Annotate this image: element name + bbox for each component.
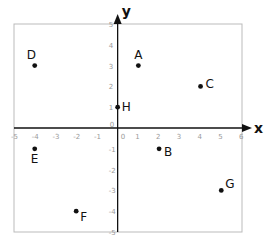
- y-tick-label: 2: [109, 83, 113, 91]
- x-tick-label: 1: [135, 133, 139, 141]
- y-tick-label: -2: [109, 167, 116, 175]
- origin-label-x: 0: [121, 133, 125, 141]
- point-label-f: F: [80, 210, 87, 224]
- y-axis-label: y: [122, 3, 131, 19]
- y-tick-label: 1: [109, 104, 113, 112]
- point-g: [219, 188, 224, 193]
- x-tick-label: -1: [94, 133, 101, 141]
- y-tick-label: -4: [109, 208, 117, 216]
- point-label-d: D: [27, 48, 36, 62]
- y-tick-label: -5: [109, 229, 116, 237]
- x-tick-label: -5: [11, 133, 18, 141]
- x-tick-label: -3: [52, 133, 59, 141]
- coordinate-plane: xy-5-4-3-2-1123456-5-4-3-2-11234500ABCDE…: [0, 0, 276, 246]
- point-e: [32, 146, 37, 151]
- y-tick-label: -3: [109, 187, 116, 195]
- point-h: [115, 105, 120, 110]
- point-label-c: C: [206, 77, 214, 91]
- point-a: [136, 63, 141, 68]
- x-tick-label: -4: [32, 133, 40, 141]
- point-f: [74, 209, 79, 214]
- origin-label-y: 0: [110, 121, 114, 129]
- x-tick-label: 5: [218, 133, 222, 141]
- point-label-b: B: [164, 145, 172, 159]
- x-tick-label: 4: [198, 133, 203, 141]
- x-tick-label: -2: [73, 133, 80, 141]
- y-tick-label: 3: [109, 63, 113, 71]
- point-label-e: E: [31, 152, 39, 166]
- point-c: [198, 84, 203, 89]
- x-tick-label: 2: [156, 133, 160, 141]
- point-b: [157, 146, 162, 151]
- point-d: [32, 63, 37, 68]
- x-axis-arrow-icon: [242, 124, 252, 132]
- y-axis-arrow-icon: [114, 14, 122, 24]
- x-axis-label: x: [254, 120, 263, 136]
- x-tick-label: 6: [239, 133, 244, 141]
- point-label-g: G: [225, 177, 234, 191]
- y-tick-label: 5: [109, 21, 113, 29]
- point-label-h: H: [122, 100, 131, 114]
- y-tick-label: -1: [109, 146, 116, 154]
- y-tick-label: 4: [109, 42, 114, 50]
- x-tick-label: 3: [177, 133, 181, 141]
- point-label-a: A: [134, 48, 143, 62]
